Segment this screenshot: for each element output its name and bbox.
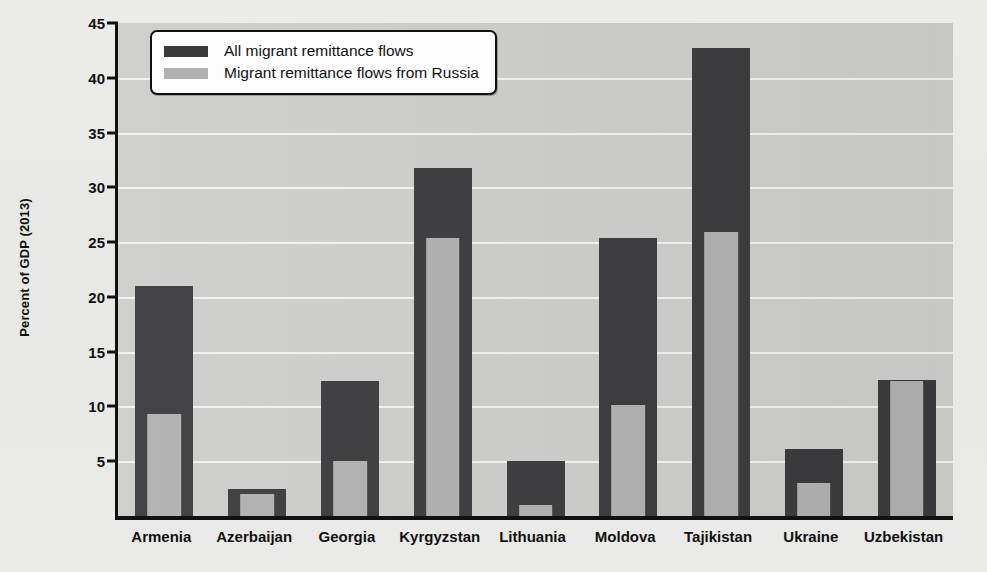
bar-russia bbox=[519, 505, 553, 516]
bar-group bbox=[692, 23, 750, 516]
y-tick-mark bbox=[107, 22, 118, 25]
x-tick-label: Moldova bbox=[595, 528, 656, 545]
bar-group bbox=[599, 23, 657, 516]
bar-russia bbox=[611, 405, 645, 516]
bar-group bbox=[878, 23, 936, 516]
bar-russia bbox=[333, 461, 367, 516]
x-tick-label: Armenia bbox=[131, 528, 191, 545]
legend-label-russia: Migrant remittance flows from Russia bbox=[224, 64, 479, 82]
bar-russia bbox=[797, 483, 831, 516]
x-tick-label: Uzbekistan bbox=[864, 528, 943, 545]
y-tick-mark bbox=[107, 131, 118, 134]
legend-label-total: All migrant remittance flows bbox=[224, 42, 414, 60]
bar-group bbox=[785, 23, 843, 516]
y-tick-mark bbox=[107, 186, 118, 189]
x-tick-label: Ukraine bbox=[783, 528, 838, 545]
bar-russia bbox=[148, 414, 182, 516]
bar-russia bbox=[890, 381, 924, 516]
y-tick-mark bbox=[107, 295, 118, 298]
legend-swatch-russia bbox=[164, 68, 208, 79]
y-tick-mark bbox=[107, 241, 118, 244]
plot-area: 51015202530354045 bbox=[115, 23, 953, 520]
x-tick-label: Azerbaijan bbox=[216, 528, 292, 545]
chart-figure: Percent of GDP (2013) 51015202530354045 … bbox=[0, 0, 987, 572]
bar-group bbox=[228, 23, 286, 516]
bar-russia bbox=[426, 238, 460, 516]
bar-russia bbox=[240, 494, 274, 516]
y-tick-mark bbox=[107, 350, 118, 353]
legend-item: All migrant remittance flows bbox=[164, 40, 479, 62]
x-tick-label: Lithuania bbox=[499, 528, 566, 545]
bar-russia bbox=[704, 232, 738, 516]
bar-group bbox=[321, 23, 379, 516]
bar-group bbox=[135, 23, 193, 516]
x-tick-label: Georgia bbox=[319, 528, 376, 545]
legend-item: Migrant remittance flows from Russia bbox=[164, 62, 479, 84]
x-tick-label: Kyrgyzstan bbox=[399, 528, 480, 545]
x-tick-label: Tajikistan bbox=[684, 528, 752, 545]
y-tick-mark bbox=[107, 76, 118, 79]
bar-group bbox=[414, 23, 472, 516]
legend-swatch-total bbox=[164, 46, 208, 57]
y-tick-mark bbox=[107, 460, 118, 463]
chart-legend: All migrant remittance flows Migrant rem… bbox=[150, 30, 497, 95]
bar-group bbox=[507, 23, 565, 516]
y-axis-title: Percent of GDP (2013) bbox=[17, 148, 32, 388]
y-tick-mark bbox=[107, 405, 118, 408]
